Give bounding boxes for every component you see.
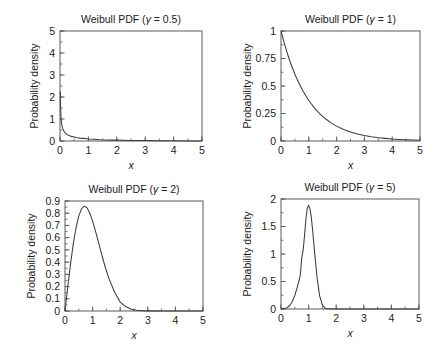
x-tick-label: 0 — [57, 144, 63, 156]
y-tick-label: 0.6 — [45, 231, 60, 243]
y-tick-label: 0.9 — [45, 195, 60, 207]
pdf-curve — [65, 206, 203, 311]
x-tick-label: 2 — [333, 312, 339, 324]
y-axis-label: Probability density — [241, 211, 253, 297]
y-tick-label: 0.1 — [45, 292, 60, 304]
y-axis-label: Probability density — [241, 43, 253, 129]
y-tick-label: 1.5 — [261, 220, 276, 232]
x-tick-label: 3 — [361, 144, 367, 156]
plot-frame — [65, 201, 203, 311]
x-tick-label: 2 — [114, 144, 120, 156]
x-tick-label: 5 — [417, 144, 423, 156]
y-tick-label: 0.7 — [45, 219, 60, 231]
x-tick-label: 2 — [334, 144, 340, 156]
x-tick-label: 1 — [85, 144, 91, 156]
x-axis-label: x — [347, 159, 354, 171]
y-tick-label: 0.3 — [45, 268, 60, 280]
pdf-curve — [60, 91, 202, 141]
plot-frame — [60, 31, 202, 141]
chart-panel-3: Weibull PDF (γ = 2)01234500.10.20.30.40.… — [0, 177, 217, 354]
y-tick-label: 0 — [54, 305, 60, 317]
x-tick-label: 4 — [171, 144, 177, 156]
y-tick-label: 0.5 — [45, 244, 60, 256]
weibull-pdf-figure: Weibull PDF (γ = 0.5)012345012345xProbab… — [0, 0, 434, 354]
panel-title: Weibull PDF (γ = 0.5) — [81, 13, 181, 25]
panel-title: Weibull PDF (γ = 1) — [305, 13, 396, 25]
x-tick-label: 1 — [90, 314, 96, 326]
y-tick-label: 0 — [270, 303, 276, 315]
x-tick-label: 5 — [199, 144, 205, 156]
y-tick-label: 0 — [49, 135, 55, 147]
y-tick-label: 0.25 — [256, 107, 277, 119]
y-axis-label: Probability density — [28, 43, 40, 129]
x-tick-label: 0 — [278, 312, 284, 324]
x-tick-label: 3 — [145, 314, 151, 326]
y-tick-label: 0.75 — [256, 52, 277, 64]
y-axis-label: Probability density — [25, 213, 37, 299]
x-axis-label: x — [130, 329, 137, 341]
x-axis-label: x — [346, 327, 353, 339]
y-axis-ticks: 00.511.52 — [261, 193, 285, 315]
plot-frame — [281, 199, 419, 309]
x-axis-label: x — [127, 159, 134, 171]
y-tick-label: 0.4 — [45, 256, 60, 268]
y-tick-label: 1 — [49, 113, 55, 125]
panel-title: Weibull PDF (γ = 2) — [88, 183, 179, 195]
y-tick-label: 0.8 — [45, 207, 60, 219]
chart-panel-1: Weibull PDF (γ = 0.5)012345012345xProbab… — [0, 0, 217, 177]
x-tick-label: 2 — [117, 314, 123, 326]
plot-frame — [281, 31, 420, 141]
y-tick-label: 0.5 — [261, 80, 276, 92]
y-tick-label: 2 — [270, 193, 276, 205]
svg-text:Weibull PDF (γ = 2): Weibull PDF (γ = 2) — [88, 183, 179, 195]
x-tick-label: 4 — [389, 144, 395, 156]
y-tick-label: 4 — [49, 47, 55, 59]
svg-text:Weibull PDF (γ = 5): Weibull PDF (γ = 5) — [304, 181, 395, 193]
svg-text:Weibull PDF (γ = 0.5): Weibull PDF (γ = 0.5) — [81, 13, 181, 25]
pdf-curve — [281, 206, 419, 309]
x-tick-label: 1 — [306, 312, 312, 324]
y-tick-label: 5 — [49, 25, 55, 37]
y-tick-label: 0.5 — [261, 275, 276, 287]
x-tick-label: 5 — [200, 314, 206, 326]
svg-text:Weibull PDF (γ = 1): Weibull PDF (γ = 1) — [305, 13, 396, 25]
chart-panel-4: Weibull PDF (γ = 5)01234500.511.52xProba… — [217, 177, 434, 354]
y-tick-label: 0 — [270, 135, 276, 147]
x-tick-label: 0 — [278, 144, 284, 156]
pdf-curve — [281, 31, 420, 140]
y-tick-label: 3 — [49, 69, 55, 81]
x-tick-label: 4 — [388, 312, 394, 324]
x-tick-label: 3 — [361, 312, 367, 324]
x-tick-label: 3 — [142, 144, 148, 156]
x-tick-label: 1 — [306, 144, 312, 156]
y-tick-label: 2 — [49, 91, 55, 103]
chart-panel-2: Weibull PDF (γ = 1)01234500.250.50.751xP… — [217, 0, 434, 177]
x-tick-label: 5 — [416, 312, 422, 324]
x-tick-label: 4 — [172, 314, 178, 326]
y-tick-label: 1 — [270, 25, 276, 37]
y-tick-label: 1 — [270, 248, 276, 260]
y-tick-label: 0.2 — [45, 280, 60, 292]
x-tick-label: 0 — [62, 314, 68, 326]
panel-title: Weibull PDF (γ = 5) — [304, 181, 395, 193]
